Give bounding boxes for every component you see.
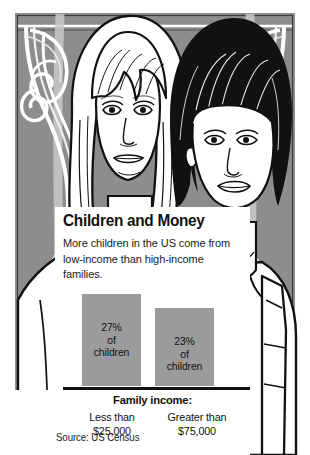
- bar-less-than-25000: 27% of children: [82, 294, 141, 386]
- chart-panel: Children and Money More children in the …: [55, 207, 250, 455]
- bar-label-2: 23% of children: [155, 336, 214, 374]
- bar-value-label-2: 23%: [155, 336, 214, 349]
- bar-sublabel-children-1: children: [82, 347, 141, 360]
- source-credit: Source: US Census: [56, 432, 139, 443]
- bar-sublabel-of-1: of: [82, 335, 141, 348]
- chart-baseline-rule: [63, 387, 250, 390]
- bar-label-1: 27% of children: [82, 322, 141, 360]
- bar-plot-area: 27% of children 23% of children: [55, 291, 250, 387]
- axis-title-family-income: Family income:: [60, 393, 245, 407]
- category-label-2: Greater than $75,000: [151, 411, 243, 438]
- chart-subtitle: More children in the US come from low-in…: [63, 235, 238, 282]
- chart-title: Children and Money: [63, 211, 205, 230]
- bar-sublabel-children-2: children: [155, 361, 214, 374]
- category-label-2-line2: $75,000: [151, 425, 243, 439]
- bar-greater-than-75000: 23% of children: [155, 308, 214, 386]
- bar-sublabel-of-2: of: [155, 349, 214, 362]
- bar-value-label-1: 27%: [82, 322, 141, 335]
- category-label-2-line1: Greater than: [151, 411, 243, 425]
- category-label-1-line1: Less than: [69, 411, 155, 425]
- infographic-root: Children and Money More children in the …: [0, 0, 310, 455]
